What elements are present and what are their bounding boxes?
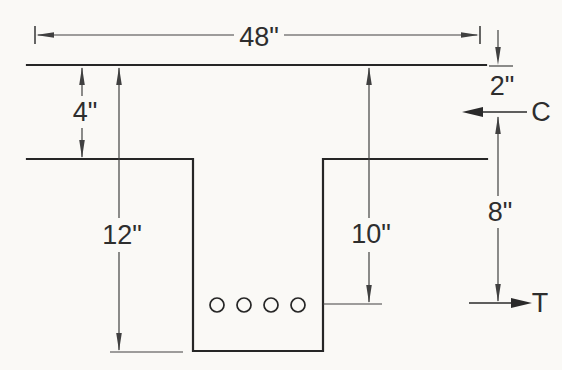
dim-label-overall-depth: 12" bbox=[102, 220, 142, 250]
dim-label-compression-offset: 2" bbox=[490, 71, 515, 101]
dim-label-flange-width: 48" bbox=[239, 22, 279, 52]
paper-background bbox=[0, 0, 562, 370]
force-label-tension: T bbox=[532, 288, 549, 318]
force-label-compression: C bbox=[531, 97, 551, 127]
dim-label-effective-depth: 10" bbox=[351, 219, 391, 249]
dim-label-flange-thickness: 4" bbox=[73, 97, 98, 127]
t-beam-cross-section-diagram: 48" 4" 12" 10" 2" C bbox=[0, 0, 562, 370]
dim-label-moment-arm: 8" bbox=[488, 197, 513, 227]
diagram-svg: 48" 4" 12" 10" 2" C bbox=[0, 0, 562, 370]
